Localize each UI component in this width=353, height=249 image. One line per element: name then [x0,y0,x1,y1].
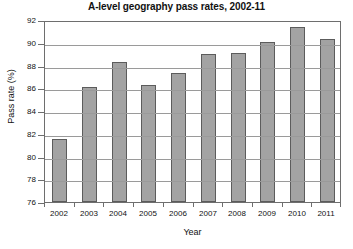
y-tick-label: 78 [14,176,36,184]
bar-2005 [141,85,156,202]
x-axis-title: Year [44,227,341,237]
gridline [45,181,340,182]
bar-2009 [260,42,275,202]
x-tick-mark [74,203,75,207]
gridline [45,90,340,91]
x-tick-mark [282,203,283,207]
x-tick-label: 2003 [74,209,104,218]
x-tick-label: 2004 [103,209,133,218]
bar-2003 [82,87,97,202]
x-tick-label: 2005 [133,209,163,218]
y-tick-label: 84 [14,108,36,116]
y-tick-label: 82 [14,131,36,139]
y-tick-label: 86 [14,85,36,93]
y-tick-label: 76 [14,199,36,207]
gridline [45,113,340,114]
x-tick-label: 2009 [252,209,282,218]
plot-area [44,21,341,203]
x-tick-label: 2006 [163,209,193,218]
gridline [45,159,340,160]
x-tick-label: 2002 [44,209,74,218]
chart-title: A-level geography pass rates, 2002-11 [0,1,353,13]
bar-2010 [290,27,305,202]
y-axis: Pass rate (%) 929088868482807876 [0,0,44,249]
x-tick-mark [311,203,312,207]
x-tick-mark [252,203,253,207]
x-tick-label: 2011 [311,209,341,218]
x-tick-label: 2008 [222,209,252,218]
x-tick-mark [222,203,223,207]
x-tick-mark [340,203,341,207]
x-tick-label: 2007 [193,209,223,218]
x-tick-mark [133,203,134,207]
y-tick-label: 92 [14,17,36,25]
x-tick-mark [103,203,104,207]
y-tick-label: 88 [14,63,36,71]
x-tick-mark [163,203,164,207]
y-tick-label: 80 [14,154,36,162]
x-tick-mark [193,203,194,207]
bar-2002 [52,139,67,202]
x-tick-label: 2010 [282,209,312,218]
gridline [45,45,340,46]
bar-chart: A-level geography pass rates, 2002-11 Pa… [0,0,353,249]
x-axis: Year 20022003200420052006200720082009201… [44,203,341,249]
bar-2006 [171,73,186,202]
gridline [45,136,340,137]
y-tick-label: 90 [14,40,36,48]
bar-2011 [320,39,335,202]
gridline [45,68,340,69]
x-tick-mark [44,203,45,207]
